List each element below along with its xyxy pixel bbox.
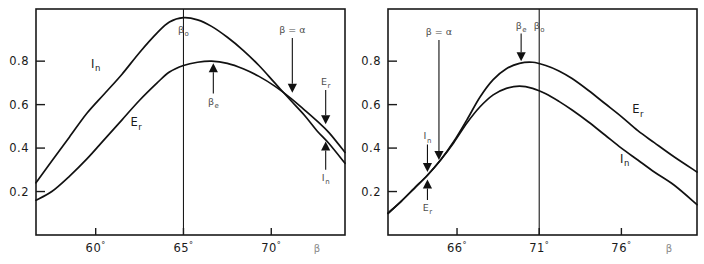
chart-panel-right: 0.20.40.60.866°71°76°βErInβ = αβeβoInEr xyxy=(352,0,704,264)
beta-e-label: βe xyxy=(208,96,219,110)
er-pointer-label: Er xyxy=(321,76,331,90)
y-axis-tick-label: 0.4 xyxy=(9,141,29,155)
er-curve-label: Er xyxy=(632,102,644,118)
x-axis-name: β xyxy=(666,243,672,254)
figure-root: 0.20.40.60.860°65°70°βInErβoβeβ = αErIn … xyxy=(0,0,704,264)
in-curve-label: In xyxy=(620,152,629,168)
svg-text:In: In xyxy=(620,152,629,168)
curve-e-r xyxy=(388,62,697,213)
beta-e-label-arrow xyxy=(517,34,526,62)
y-axis-tick-label: 0.8 xyxy=(361,54,381,68)
svg-text:βe: βe xyxy=(208,96,219,110)
x-axis-tick-label: 76° xyxy=(611,241,631,256)
x-axis-tick-label: 71° xyxy=(529,241,549,256)
in-curve-label: In xyxy=(91,57,100,73)
chart-left-svg: 0.20.40.60.860°65°70°βInErβoβeβ = αErIn xyxy=(0,0,352,264)
svg-text:β = α: β = α xyxy=(279,24,305,35)
in-pointer-label: In xyxy=(424,130,432,144)
in-pointer-label-arrow xyxy=(423,144,432,172)
y-axis-tick-label: 0.2 xyxy=(9,185,29,199)
svg-text:Er: Er xyxy=(321,76,331,90)
beta-equals-alpha-label-arrow xyxy=(288,38,297,93)
in-pointer-label: In xyxy=(322,172,330,186)
y-axis-tick-label: 0.6 xyxy=(9,98,29,112)
y-axis-tick-label: 0.8 xyxy=(9,54,29,68)
x-axis-name: β xyxy=(314,243,320,254)
er-curve-label: Er xyxy=(130,115,142,131)
er-pointer-label: Er xyxy=(423,202,433,216)
svg-text:βe: βe xyxy=(516,20,527,34)
er-pointer-label-arrow xyxy=(423,180,432,201)
x-axis-tick-label: 66° xyxy=(447,241,467,256)
svg-text:Er: Er xyxy=(423,202,433,216)
svg-text:Er: Er xyxy=(632,102,644,118)
svg-text:β = α: β = α xyxy=(426,26,452,37)
beta-equals-alpha-label: β = α xyxy=(426,26,452,37)
x-axis-tick-label: 60° xyxy=(86,241,106,256)
plot-frame xyxy=(36,9,345,235)
svg-text:Er: Er xyxy=(130,115,142,131)
curve-e-r xyxy=(36,61,345,200)
chart-panel-left: 0.20.40.60.860°65°70°βInErβoβeβ = αErIn xyxy=(0,0,352,264)
y-axis-tick-label: 0.2 xyxy=(361,185,381,199)
er-pointer-label-arrow xyxy=(321,90,330,124)
x-axis-tick-label: 70° xyxy=(261,241,281,256)
in-pointer-label-arrow xyxy=(321,142,330,170)
svg-text:In: In xyxy=(322,172,330,186)
beta-equals-alpha-label: β = α xyxy=(279,24,305,35)
svg-text:In: In xyxy=(91,57,100,73)
curve-i-n xyxy=(36,18,345,183)
y-axis-tick-label: 0.4 xyxy=(361,141,381,155)
chart-right-svg: 0.20.40.60.866°71°76°βErInβ = αβeβoInEr xyxy=(352,0,704,264)
beta-e-label-arrow xyxy=(209,63,218,93)
beta-equals-alpha-label-arrow xyxy=(434,40,443,160)
curve-i-n xyxy=(388,86,697,213)
y-axis-tick-label: 0.6 xyxy=(361,98,381,112)
svg-text:In: In xyxy=(424,130,432,144)
beta-e-label: βe xyxy=(516,20,527,34)
plot-frame xyxy=(388,9,697,235)
x-axis-tick-label: 65° xyxy=(173,241,193,256)
